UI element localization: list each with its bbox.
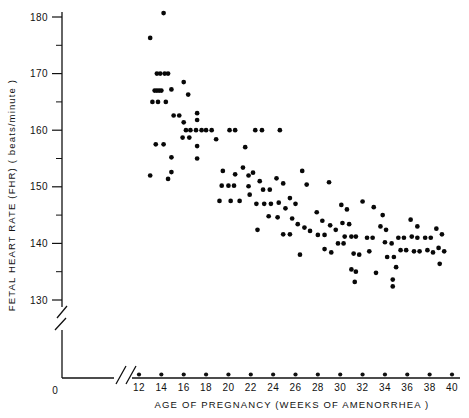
data-point <box>345 207 350 212</box>
y-tick-label: 160 <box>30 125 48 136</box>
data-point <box>412 249 417 254</box>
data-point <box>436 246 441 251</box>
y-axis-ticks-group: 130140150160170180 <box>30 12 62 306</box>
data-point <box>253 128 258 133</box>
data-point <box>347 222 352 227</box>
data-point <box>374 270 379 275</box>
data-point <box>187 135 192 140</box>
data-point <box>398 248 403 253</box>
data-point <box>233 172 238 177</box>
data-point <box>302 225 307 230</box>
data-point <box>385 255 390 260</box>
data-point <box>341 241 346 246</box>
data-point <box>180 135 185 140</box>
data-point <box>153 142 158 147</box>
data-point <box>169 170 174 175</box>
data-point <box>184 128 189 133</box>
data-point <box>227 128 232 133</box>
data-point <box>251 170 256 175</box>
data-point <box>255 227 260 232</box>
x-tick-major <box>428 372 432 376</box>
data-point <box>159 88 164 93</box>
data-point <box>371 205 376 210</box>
data-point <box>161 142 166 147</box>
data-point <box>169 155 174 160</box>
data-point <box>267 187 272 192</box>
data-point <box>392 255 397 260</box>
data-point <box>254 201 259 206</box>
data-point <box>204 128 209 133</box>
x-tick-major <box>249 372 253 376</box>
data-point <box>156 100 161 105</box>
data-point <box>329 250 334 255</box>
x-tick-label: 34 <box>379 382 391 393</box>
data-point <box>404 248 409 253</box>
data-point <box>166 177 171 182</box>
data-point <box>169 87 174 92</box>
x-tick-label: 16 <box>178 382 190 393</box>
data-point <box>380 213 385 218</box>
data-point <box>228 199 233 204</box>
x-tick-label: 32 <box>357 382 369 393</box>
data-point <box>150 100 155 105</box>
y-tick-label: 170 <box>30 68 48 79</box>
data-point <box>354 269 359 274</box>
data-point <box>357 252 362 257</box>
data-point <box>288 232 293 237</box>
y-tick-label: 180 <box>30 12 48 23</box>
data-point <box>214 137 219 142</box>
data-point <box>246 184 251 189</box>
data-point <box>247 192 252 197</box>
data-point <box>257 179 262 184</box>
data-point <box>320 218 325 223</box>
data-point <box>352 280 357 285</box>
data-point <box>275 215 280 220</box>
x-tick-label: 14 <box>155 382 167 393</box>
data-point <box>378 224 383 229</box>
data-point <box>434 226 439 231</box>
data-point <box>437 261 442 266</box>
data-point <box>340 221 345 226</box>
data-point <box>261 187 266 192</box>
x-tick-label: 26 <box>290 382 302 393</box>
data-point <box>295 222 300 227</box>
data-point <box>354 234 359 239</box>
data-point <box>281 181 286 186</box>
data-point <box>195 144 200 149</box>
data-point <box>365 235 370 240</box>
data-point <box>328 223 333 228</box>
origin-tick-label: 0 <box>52 385 58 396</box>
data-point <box>333 227 338 232</box>
x-tick-major <box>293 372 297 376</box>
data-point <box>177 113 182 118</box>
x-tick-major <box>383 372 387 376</box>
x-tick-major <box>159 372 163 376</box>
y-axis-title: FETAL HEART RATE (FHR) ( beats/minute ) <box>6 79 17 311</box>
data-point <box>220 169 225 174</box>
data-point <box>367 249 372 254</box>
data-point <box>389 241 394 246</box>
data-point <box>423 235 428 240</box>
data-point <box>283 206 288 211</box>
data-point <box>181 80 186 85</box>
data-point <box>233 128 238 133</box>
data-point <box>266 214 271 219</box>
x-tick-label: 24 <box>267 382 279 393</box>
data-point <box>384 227 389 232</box>
data-point <box>349 234 354 239</box>
x-tick-major <box>182 372 186 376</box>
data-point <box>409 234 414 239</box>
data-point <box>290 216 295 221</box>
data-point <box>276 200 281 205</box>
data-point <box>195 111 200 116</box>
data-point <box>370 235 375 240</box>
x-tick-major <box>316 372 320 376</box>
data-point <box>217 199 222 204</box>
data-point <box>241 165 246 170</box>
x-tick-label: 40 <box>446 382 458 393</box>
data-point <box>342 234 347 239</box>
data-point <box>360 199 365 204</box>
data-point <box>396 235 401 240</box>
x-tick-label: 38 <box>424 382 436 393</box>
x-axis-ticks-group: 121416182022242628303234363840 <box>133 372 458 393</box>
